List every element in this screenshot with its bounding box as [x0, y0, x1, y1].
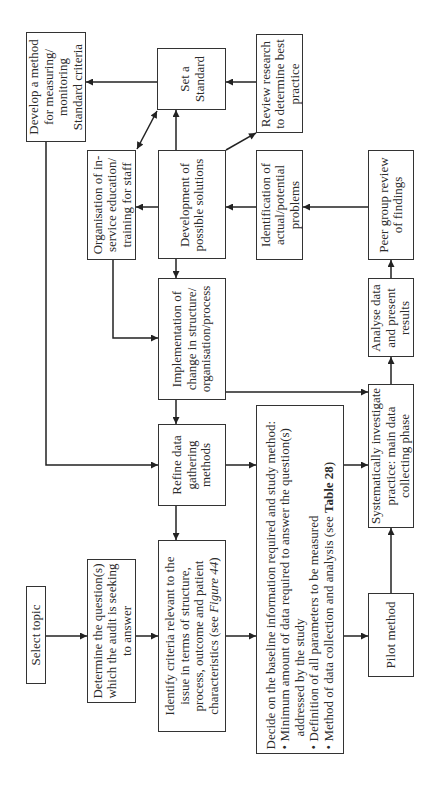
box-text-line: problems	[287, 181, 302, 229]
box-text-line: gathering	[185, 440, 200, 489]
box-determine-questions: Determine the question(s) which the audi…	[87, 559, 136, 703]
box-text-line: Peer group review	[377, 157, 392, 252]
box-select-topic: Select topic	[26, 586, 46, 684]
box-text-line: for measuring/	[42, 49, 57, 125]
box-text-line: Analyse data	[369, 284, 384, 352]
box-text-line: collecting phase	[398, 414, 413, 498]
figure-reference: Figure 44	[206, 562, 221, 613]
box-label: Systematically investigate practice: mai…	[368, 384, 414, 528]
arrow-development-to-review-research	[226, 133, 256, 150]
box-text-line: characteristics (see Figure 44)	[207, 557, 222, 714]
box-text-line: of findings	[391, 177, 406, 234]
box-text-line: change in structure/	[185, 288, 200, 391]
box-label: Organisation of in- service education/ t…	[87, 150, 136, 260]
text-prefix: characteristics (see	[206, 613, 221, 715]
box-label: Determine the question(s) which the audi…	[87, 559, 136, 703]
bullet-continuation: addressed by the study	[293, 618, 308, 749]
box-text-line: Determine the question(s)	[90, 564, 105, 699]
bullet-text-suffix: )	[321, 461, 336, 465]
box-text-line: Develop a method	[27, 39, 42, 134]
box-label: Develop a method for measuring/ monitori…	[26, 32, 86, 142]
box-text-line: practice: main data	[384, 407, 399, 506]
bullet-text: Minimum amount of data required to answe…	[277, 428, 292, 741]
box-text-line: issue in terms of structure,	[178, 567, 193, 705]
box-text-line: Refine data	[170, 435, 185, 495]
box-text-line: practice	[287, 63, 302, 104]
box-peer-review: Peer group review of findings	[368, 150, 414, 260]
box-text-line: monitoring	[56, 58, 71, 116]
box-text-line: organisation/process	[199, 286, 214, 393]
text-suffix: )	[206, 557, 221, 561]
box-heading: Decide on the baseline information requi…	[264, 420, 279, 749]
arrow-organisation-to-implementation	[113, 260, 158, 338]
box-text-line: Select topic	[29, 605, 44, 666]
box-label: Identification of actual/potential probl…	[256, 150, 303, 260]
box-text-line: possible solutions	[192, 158, 207, 251]
bullet-text: Method of data collection and analysis (…	[321, 512, 336, 741]
audit-cycle-flowchart: Develop a method for measuring/ monitori…	[0, 0, 437, 792]
box-identify-criteria: Identify criteria relevant to the issue …	[158, 540, 226, 732]
box-label: Analyse data and present results	[368, 278, 414, 357]
box-label: Review research to determine best practi…	[256, 34, 303, 133]
bullet-item: •Method of data collection and analysis …	[322, 461, 337, 749]
bullet-item: •Definition of all parameters to be meas…	[307, 515, 322, 749]
box-label: Select topic	[26, 586, 46, 684]
box-text-line: Standard	[192, 56, 207, 102]
box-organisation-education: Organisation of in- service education/ t…	[87, 150, 136, 260]
box-develop-method: Develop a method for measuring/ monitori…	[26, 32, 86, 142]
box-text-line: Standard criteria	[71, 44, 86, 130]
bullet-icon: •	[278, 741, 293, 749]
box-label: Decide on the baseline information requi…	[256, 405, 344, 754]
box-label: Peer group review of findings	[368, 150, 414, 260]
box-label: Development of possible solutions	[158, 150, 226, 259]
box-pilot-method: Pilot method	[368, 593, 414, 677]
box-text-line: and present	[384, 288, 399, 348]
box-text-line: actual/potential	[272, 165, 287, 245]
box-label: Identify criteria relevant to the issue …	[158, 540, 226, 732]
box-text-line: methods	[199, 443, 214, 487]
box-development-solutions: Development of possible solutions	[158, 150, 226, 259]
arrow-set-standard-organisation-bidirectional	[137, 111, 157, 149]
box-systematically-investigate: Systematically investigate practice: mai…	[368, 384, 414, 528]
box-text-line: Development of	[178, 162, 193, 246]
box-text-line: Pilot method	[384, 602, 399, 669]
box-text-line: which the audit is seeking	[104, 563, 119, 698]
box-text-line: to answer	[119, 606, 134, 656]
bullet-icon: •	[307, 741, 322, 749]
box-text-line: Implementation of	[170, 291, 185, 387]
box-refine-methods: Refine data gathering methods	[158, 424, 226, 506]
box-review-research: Review research to determine best practi…	[256, 34, 303, 133]
box-label: Implementation of change in structure/ o…	[158, 278, 226, 400]
box-label: Refine data gathering methods	[158, 424, 226, 506]
box-text-line: to determine best	[272, 39, 287, 129]
box-label: Pilot method	[368, 593, 414, 677]
box-text-line: Review research	[258, 40, 273, 126]
box-text-line: training for staff	[119, 163, 134, 248]
box-text-line: process, outcome and patient	[192, 561, 207, 712]
bullet-item: •Minimum amount of data required to answ…	[278, 428, 293, 749]
box-text-line: results	[398, 301, 413, 335]
bullet-text: Definition of all parameters to be measu…	[306, 515, 321, 741]
box-decide-baseline: Decide on the baseline information requi…	[256, 405, 344, 754]
box-set-standard: Set a Standard	[157, 48, 226, 110]
box-text-line: Set a	[177, 66, 192, 92]
bullet-icon: •	[322, 741, 337, 749]
box-analyse-data: Analyse data and present results	[368, 278, 414, 357]
box-text-line: service education/	[104, 158, 119, 252]
box-identification-problems: Identification of actual/potential probl…	[256, 150, 303, 260]
box-label: Set a Standard	[157, 48, 226, 110]
box-text-line: Systematically investigate	[369, 388, 384, 524]
box-text-line: Organisation of in-	[90, 156, 105, 255]
box-text-line: Identification of	[258, 163, 273, 247]
table-reference: Table 28	[321, 466, 336, 513]
box-implementation-change: Implementation of change in structure/ o…	[158, 278, 226, 400]
box-text-line: Identify criteria relevant to the	[163, 557, 178, 716]
